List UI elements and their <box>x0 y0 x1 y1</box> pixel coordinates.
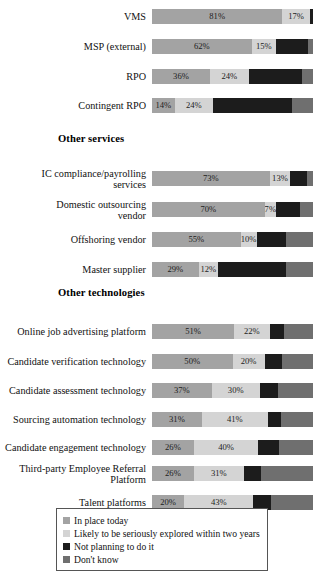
stacked-bar: 70%7% <box>152 202 313 217</box>
bar-segment: 55% <box>152 232 241 247</box>
legend-label: Not planning to do it <box>74 541 154 553</box>
bar-segment <box>284 324 313 339</box>
category-label: Contingent RPO <box>0 100 152 111</box>
segment-value-label: 51% <box>185 327 201 336</box>
bar-segment <box>213 98 292 113</box>
bar-segment <box>278 383 313 398</box>
segment-value-label: 15% <box>256 42 272 51</box>
bar-segment <box>265 354 283 369</box>
bar-segment: 31% <box>194 466 244 481</box>
stacked-bar: 31%41% <box>152 412 313 427</box>
bar-segment: 62% <box>152 39 252 54</box>
legend-item[interactable]: Likely to be seriously explored within t… <box>63 527 261 540</box>
bar-segment <box>244 466 262 481</box>
stacked-bar: 55%10% <box>152 232 313 247</box>
bar-segment <box>271 495 313 510</box>
stacked-bar: 26%40% <box>152 440 313 455</box>
segment-value-label: 20% <box>160 498 176 507</box>
bar-segment: 26% <box>152 440 194 455</box>
segment-value-label: 70% <box>200 205 216 214</box>
chart-row: Candidate assessment technology37%30% <box>0 380 325 401</box>
chart-row: Contingent RPO14%24% <box>0 95 325 116</box>
bar-segment: 73% <box>152 171 270 186</box>
bar-segment <box>307 171 313 186</box>
bar-segment: 20% <box>233 354 265 369</box>
bar-segment <box>292 98 313 113</box>
bar-segment: 81% <box>152 9 282 24</box>
segment-value-label: 20% <box>241 357 257 366</box>
category-label: Master supplier <box>0 264 152 275</box>
stacked-bar: 37%30% <box>152 383 313 398</box>
legend-swatch-icon <box>63 543 70 550</box>
category-label: Online job advertising platform <box>0 326 152 337</box>
bar-segment <box>258 440 279 455</box>
bar-segment: 29% <box>152 262 199 277</box>
segment-value-label: 31% <box>211 469 227 478</box>
chart-row: Offshoring vendor55%10% <box>0 229 325 250</box>
category-label: Candidate assessment technology <box>0 385 152 396</box>
legend-item[interactable]: In place today <box>63 514 261 527</box>
bar-segment: 37% <box>152 383 212 398</box>
category-label: VMS <box>0 11 152 22</box>
legend-item[interactable]: Don't know <box>63 553 261 566</box>
segment-value-label: 14% <box>155 101 171 110</box>
segment-value-label: 81% <box>209 12 225 21</box>
segment-value-label: 43% <box>211 498 227 507</box>
bar-segment <box>308 39 313 54</box>
stacked-bar: 73%13% <box>152 171 313 186</box>
legend-swatch-icon <box>63 530 70 537</box>
chart-row: Online job advertising platform51%22% <box>0 321 325 342</box>
bar-segment: 17% <box>282 9 309 24</box>
chart-row: IC compliance/payrolling services73%13% <box>0 168 325 189</box>
segment-value-label: 29% <box>167 265 183 274</box>
category-label: Candidate engagement technology <box>0 442 152 453</box>
chart-row: Candidate verification technology50%20% <box>0 351 325 372</box>
category-label: IC compliance/payrolling services <box>0 168 152 190</box>
segment-value-label: 24% <box>186 101 202 110</box>
bar-segment: 30% <box>212 383 260 398</box>
stacked-bar: 29%12% <box>152 262 313 277</box>
bar-segment: 36% <box>152 69 210 84</box>
legend-label: Likely to be seriously explored within t… <box>74 528 260 540</box>
stacked-bar: 26%31% <box>152 466 313 481</box>
stacked-bar: 36%24% <box>152 69 313 84</box>
bar-segment: 12% <box>199 262 218 277</box>
segment-value-label: 22% <box>244 327 260 336</box>
bar-segment <box>218 262 286 277</box>
bar-segment <box>249 69 302 84</box>
bar-segment <box>281 412 313 427</box>
segment-value-label: 73% <box>203 174 219 183</box>
category-label: Offshoring vendor <box>0 234 152 245</box>
bar-segment <box>268 412 281 427</box>
legend-label: Don't know <box>74 554 119 566</box>
segment-value-label: 37% <box>174 386 190 395</box>
bar-segment <box>300 202 313 217</box>
stacked-bar: 51%22% <box>152 324 313 339</box>
chart-row: Candidate engagement technology26%40% <box>0 437 325 458</box>
bar-segment <box>310 9 313 24</box>
chart-row: Domestic outsourcing vendor70%7% <box>0 199 325 220</box>
bar-segment: 40% <box>194 440 258 455</box>
section-heading: Other services <box>58 133 124 144</box>
segment-value-label: 10% <box>241 235 257 244</box>
chart-legend: In place todayLikely to be seriously exp… <box>56 508 268 571</box>
stacked-bar: 81%17% <box>152 9 313 24</box>
bar-segment: 24% <box>210 69 249 84</box>
segment-value-label: 26% <box>165 469 181 478</box>
segment-value-label: 13% <box>272 174 288 183</box>
bar-segment <box>302 69 313 84</box>
bar-segment: 51% <box>152 324 234 339</box>
legend-item[interactable]: Not planning to do it <box>63 540 261 553</box>
bar-segment <box>290 171 306 186</box>
bar-segment <box>286 262 313 277</box>
bar-segment <box>260 383 278 398</box>
bar-segment <box>279 440 313 455</box>
chart-row: Sourcing automation technology31%41% <box>0 409 325 430</box>
legend-swatch-icon <box>63 556 70 563</box>
segment-value-label: 7% <box>265 205 276 214</box>
stacked-bar: 62%15% <box>152 39 313 54</box>
bar-segment: 41% <box>202 412 268 427</box>
bar-segment: 50% <box>152 354 233 369</box>
bar-segment: 13% <box>270 171 291 186</box>
category-label: RPO <box>0 71 152 82</box>
